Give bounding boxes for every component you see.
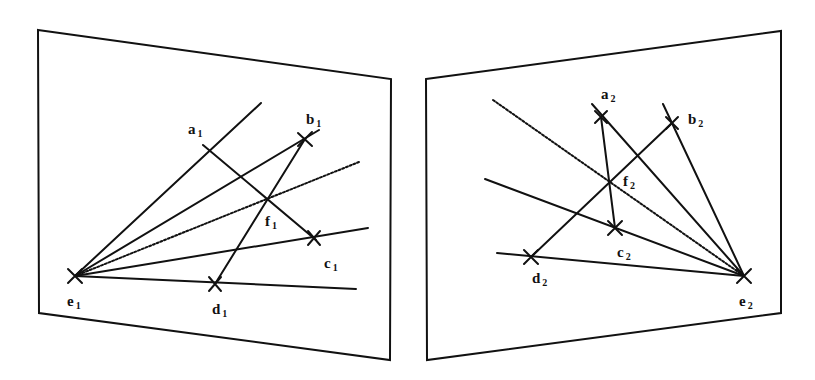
label-a2: a2 [601,87,616,104]
label-b2: b2 [688,112,703,129]
label-c1: c1 [324,256,338,273]
right-view [426,31,781,360]
label-e2: e2 [739,294,753,311]
segment-a1-c1 [203,145,316,240]
label-e1: e1 [67,294,81,311]
cross-marker-b2 [666,117,678,129]
label-f1: f1 [265,214,277,231]
label-c2: c2 [617,245,631,262]
segment-d2-b2 [531,123,672,257]
epipolar-line-b1 [75,130,319,276]
segment-d1-b1 [215,139,305,284]
epipolar-diagram [0,0,815,380]
label-a1: a1 [188,122,203,139]
segment-a2-c2 [601,117,615,228]
epipolar-line-f1-dotted [75,162,359,276]
cross-marker-b1 [298,132,312,146]
right-image-plane [426,31,781,360]
label-d1: d1 [212,302,227,319]
epipolar-line-a2 [592,104,744,276]
cross-marker-d1 [209,277,221,291]
label-d2: d2 [532,271,547,288]
label-b1: b1 [306,112,321,129]
label-f2: f2 [623,174,635,191]
